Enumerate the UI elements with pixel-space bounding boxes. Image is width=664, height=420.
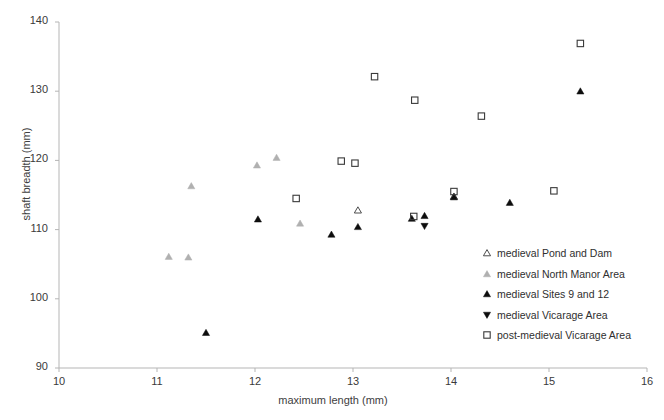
data-point	[354, 223, 361, 229]
chart-legend: medieval Pond and Dammedieval North Mano…	[480, 243, 631, 346]
legend-item-label: medieval Pond and Dam	[497, 247, 612, 259]
square-open-icon-glyph	[484, 332, 490, 338]
data-point	[293, 195, 299, 201]
data-point	[408, 215, 415, 221]
x-tick-label: 12	[238, 375, 272, 387]
chart-container: shaft breadth (mm) maximum length (mm) 9…	[0, 0, 664, 420]
triangle-open-icon	[480, 247, 494, 259]
data-point	[551, 188, 557, 194]
data-point	[371, 73, 377, 79]
series-3	[421, 223, 428, 229]
x-tick-label: 16	[630, 375, 664, 387]
x-tick-label: 10	[42, 375, 76, 387]
x-tick-label: 15	[532, 375, 566, 387]
data-point	[412, 97, 418, 103]
data-point	[328, 231, 335, 237]
data-point	[273, 154, 280, 160]
triangle-gray-icon-glyph	[483, 270, 490, 276]
legend-item[interactable]: medieval Pond and Dam	[480, 243, 631, 264]
data-point	[188, 183, 195, 189]
data-point	[577, 40, 583, 46]
legend-item-label: post-medieval Vicarage Area	[497, 329, 631, 341]
triangle-gray-icon	[480, 268, 494, 280]
scatter-plot-svg	[0, 0, 664, 420]
data-point	[202, 329, 209, 335]
y-tick-label: 140	[14, 14, 48, 26]
data-point	[338, 158, 344, 164]
y-tick-label: 100	[14, 291, 48, 303]
data-point	[352, 160, 358, 166]
data-point	[506, 199, 513, 205]
legend-item-label: medieval Sites 9 and 12	[497, 288, 609, 300]
data-point	[165, 253, 172, 259]
legend-item-label: medieval Vicarage Area	[497, 309, 608, 321]
x-tick-label: 11	[140, 375, 174, 387]
x-tick-label: 13	[336, 375, 370, 387]
triangle-black-icon	[480, 288, 494, 300]
square-open-icon	[480, 329, 494, 341]
y-tick-label: 90	[14, 360, 48, 372]
triangle-open-icon-glyph	[483, 250, 490, 256]
data-point	[421, 223, 428, 229]
data-point	[297, 220, 304, 226]
legend-item[interactable]: medieval Sites 9 and 12	[480, 284, 631, 305]
y-tick-label: 110	[14, 222, 48, 234]
legend-item[interactable]: medieval Vicarage Area	[480, 305, 631, 326]
x-tick-label: 14	[434, 375, 468, 387]
legend-item-label: medieval North Manor Area	[497, 268, 625, 280]
legend-item[interactable]: post-medieval Vicarage Area	[480, 325, 631, 346]
data-point	[254, 216, 261, 222]
data-point	[185, 254, 192, 260]
y-tick-label: 130	[14, 83, 48, 95]
series-1	[165, 154, 303, 260]
legend-item[interactable]: medieval North Manor Area	[480, 264, 631, 285]
data-point	[577, 88, 584, 94]
y-tick-label: 120	[14, 152, 48, 164]
triangle-down-black-icon-glyph	[483, 312, 490, 318]
data-point	[478, 113, 484, 119]
series-0	[354, 193, 457, 213]
data-point	[354, 207, 361, 213]
data-point	[253, 162, 260, 168]
series-4	[293, 40, 584, 219]
data-point	[421, 212, 428, 218]
triangle-black-icon-glyph	[483, 291, 490, 297]
triangle-down-black-icon	[480, 309, 494, 321]
x-axis-title: maximum length (mm)	[248, 394, 418, 406]
